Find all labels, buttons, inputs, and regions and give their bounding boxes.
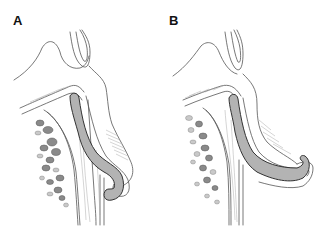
panel-a-illustration: [0, 0, 163, 235]
panel-b-illustration: [163, 0, 326, 235]
anatomical-figure: A: [0, 0, 326, 235]
panel-a: A: [0, 0, 163, 235]
tube-structure-b: [229, 94, 309, 181]
porous-bone-b: [186, 116, 220, 205]
panel-b: B: [163, 0, 326, 235]
tube-structure-a: [70, 93, 124, 200]
